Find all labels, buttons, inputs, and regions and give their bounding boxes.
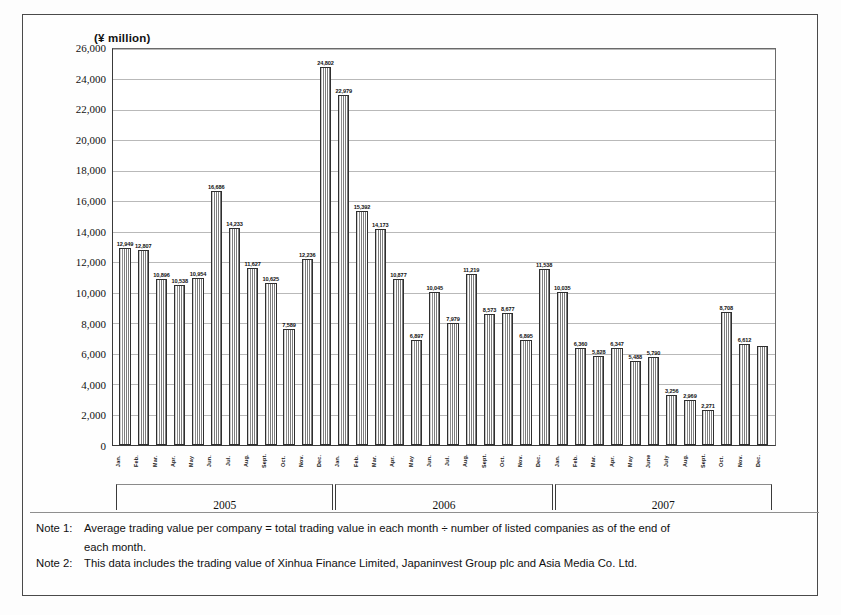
- bar[interactable]: 10,538: [174, 285, 185, 446]
- note-text: This data includes the trading value of …: [84, 555, 811, 571]
- bar[interactable]: 12,807: [138, 250, 149, 445]
- x-axis-tick-label: Sept.: [481, 448, 499, 474]
- bar-slot: 6,612: [735, 49, 753, 445]
- bar[interactable]: 2,271: [702, 410, 713, 445]
- x-axis-tick-label: Feb.: [353, 448, 371, 474]
- bar[interactable]: 10,045: [429, 292, 440, 445]
- bar[interactable]: 14,233: [229, 228, 240, 445]
- bar[interactable]: 6,897: [411, 340, 422, 445]
- x-axis-tick-label: Nov.: [737, 448, 755, 474]
- bar[interactable]: 11,219: [466, 274, 477, 445]
- bar-slot: 2,969: [681, 49, 699, 445]
- y-axis-tick-label: 2,000: [81, 409, 106, 421]
- bar-value-label: 2,271: [701, 403, 715, 409]
- y-axis-tick-label: 8,000: [81, 318, 106, 330]
- y-axis-tick-label: 16,000: [76, 195, 106, 207]
- y-axis-tick-label: 22,000: [76, 103, 106, 115]
- bar[interactable]: 10,877: [393, 279, 404, 445]
- bar[interactable]: 7,589: [283, 329, 294, 445]
- bar-value-label: 12,949: [117, 241, 134, 247]
- notes-divider: [30, 512, 819, 513]
- x-axis-tick-label: Nov.: [298, 448, 316, 474]
- bar-value-label: 10,045: [427, 285, 444, 291]
- bar-slot: 6,895: [517, 49, 535, 445]
- y-axis-tick-label: 24,000: [76, 73, 106, 85]
- bar-slot: 3,256: [663, 49, 681, 445]
- bar-slot: 10,896: [152, 49, 170, 445]
- bar[interactable]: 2,969: [684, 400, 695, 445]
- x-axis-tick-label: Jan.: [334, 448, 352, 474]
- x-axis-tick-label: Dec.: [755, 448, 773, 474]
- bar-slot: 6,360: [571, 49, 589, 445]
- bar[interactable]: 14,173: [375, 229, 386, 445]
- bar[interactable]: 7,979: [447, 323, 458, 445]
- bar[interactable]: 22,979: [338, 95, 349, 445]
- note-text: Average trading value per company = tota…: [84, 520, 811, 536]
- bar[interactable]: 10,954: [192, 278, 203, 445]
- year-group: 2006: [335, 484, 552, 510]
- bar-value-label: 7,589: [282, 322, 296, 328]
- bar[interactable]: 10,625: [265, 283, 276, 445]
- x-axis-tick-label: Feb.: [572, 448, 590, 474]
- x-axis-tick-label: Nov.: [517, 448, 535, 474]
- bar[interactable]: [757, 346, 768, 445]
- bar-value-label: 5,790: [647, 350, 661, 356]
- x-axis-tick-label: Aug.: [243, 448, 261, 474]
- y-axis-tick-label: 12,000: [76, 256, 106, 268]
- bar-slot: 15,392: [353, 49, 371, 445]
- x-axis-month-labels: Jan.Feb.Mar.Apr.MayJun.Jul.Aug.Sept.Oct.…: [112, 448, 776, 478]
- bar-slot: 10,035: [553, 49, 571, 445]
- bar-slot: 6,347: [608, 49, 626, 445]
- bar-slot: 5,828: [590, 49, 608, 445]
- y-axis-tick-label: 6,000: [81, 348, 106, 360]
- bar-value-label: 7,979: [446, 316, 460, 322]
- bar[interactable]: 10,035: [557, 292, 568, 445]
- year-group: 2007: [555, 484, 772, 510]
- bar[interactable]: 12,236: [302, 259, 313, 445]
- chart-area: (¥ million) 26,00024,00022,00020,00018,0…: [22, 16, 782, 456]
- bar[interactable]: 12,949: [119, 248, 130, 445]
- bar-slot: 12,949: [116, 49, 134, 445]
- bar[interactable]: 6,347: [611, 348, 622, 445]
- bar-value-label: 16,686: [208, 184, 225, 190]
- bar[interactable]: 6,895: [520, 340, 531, 445]
- bar[interactable]: 16,686: [211, 191, 222, 445]
- bar-value-label: 11,627: [245, 261, 261, 267]
- bar-slot: 14,233: [225, 49, 243, 445]
- note-continuation: each month.: [84, 539, 811, 555]
- x-axis-tick-label: Jun.: [206, 448, 224, 474]
- bar[interactable]: 8,573: [484, 314, 495, 445]
- bar[interactable]: 11,538: [539, 269, 550, 445]
- x-axis-tick-label: Sept.: [700, 448, 718, 474]
- bar[interactable]: 5,790: [648, 357, 659, 445]
- x-axis-tick-label: Jul.: [444, 448, 462, 474]
- x-axis-tick-label: Aug.: [682, 448, 700, 474]
- bar-slot: 10,625: [262, 49, 280, 445]
- bar[interactable]: 11,627: [247, 268, 258, 445]
- bar-value-label: 24,802: [317, 60, 334, 66]
- bar[interactable]: 10,896: [156, 279, 167, 445]
- bar[interactable]: 5,488: [630, 361, 641, 445]
- bar-slot: 7,979: [444, 49, 462, 445]
- y-axis-tick-label: 0: [101, 440, 107, 452]
- bar[interactable]: 8,677: [502, 313, 513, 445]
- bar-slot: 16,686: [207, 49, 225, 445]
- bar[interactable]: 24,802: [320, 67, 331, 445]
- bar[interactable]: 6,612: [739, 344, 750, 445]
- bar-slot: 8,708: [717, 49, 735, 445]
- bar[interactable]: 6,360: [575, 348, 586, 445]
- bar-slot: 24,802: [316, 49, 334, 445]
- bar[interactable]: 5,828: [593, 356, 604, 445]
- bar[interactable]: 3,256: [666, 395, 677, 445]
- bar-slot: 11,627: [244, 49, 262, 445]
- bar[interactable]: 8,708: [721, 312, 732, 445]
- bar-value-label: 6,895: [519, 333, 533, 339]
- bar[interactable]: 15,392: [356, 211, 367, 445]
- bar-value-label: 14,173: [372, 222, 389, 228]
- bar-slot: 10,954: [189, 49, 207, 445]
- x-axis-tick-label: Feb.: [133, 448, 151, 474]
- x-axis-tick-label: Jan.: [115, 448, 133, 474]
- bar-slot: [754, 49, 772, 445]
- year-group: 2005: [116, 484, 333, 510]
- note-row: Note 2:This data includes the trading va…: [36, 555, 811, 571]
